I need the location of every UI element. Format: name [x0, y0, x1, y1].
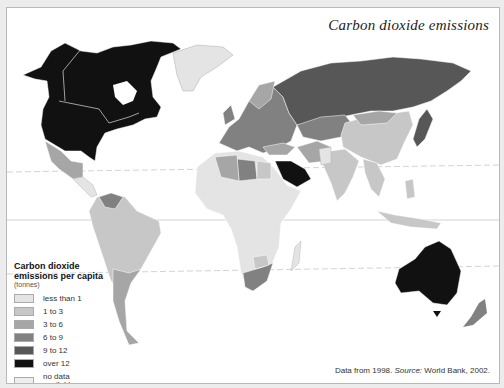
region-tasmania [433, 311, 441, 317]
legend-swatch [14, 307, 34, 316]
region-madagascar [291, 241, 301, 271]
legend-item-6-to-9: 6 to 9 [14, 331, 124, 344]
legend-swatch [14, 346, 34, 355]
legend-item-9-to-12: 9 to 12 [14, 344, 124, 357]
legend-swatch [14, 294, 34, 303]
region-greenland [173, 45, 233, 91]
legend-label: 6 to 9 [43, 334, 63, 342]
legend-swatch [14, 333, 34, 342]
legend-swatch [14, 320, 34, 329]
source-prefix: Data from 1998. [335, 366, 392, 375]
map-panel: Carbon dioxide emissions Carbon dioxide … [6, 7, 500, 384]
legend-item-no-data: no data available [14, 370, 124, 384]
region-egypt [257, 161, 271, 179]
legend-title-line2: emissions per capita [14, 271, 124, 281]
source-text: World Bank, 2002. [424, 366, 490, 375]
legend-title-line1: Carbon dioxide [14, 261, 124, 271]
legend-swatch [14, 377, 34, 385]
region-new-zealand [463, 299, 487, 327]
legend-label: 3 to 6 [43, 321, 63, 329]
legend-item-3-to-6: 3 to 6 [14, 318, 124, 331]
legend-label-line2: available [43, 380, 75, 384]
legend-label: 9 to 12 [43, 347, 67, 355]
legend: Carbon dioxide emissions per capita (ton… [14, 261, 124, 384]
region-japan [413, 109, 433, 147]
source-note: Data from 1998. Source: World Bank, 2002… [335, 366, 490, 375]
region-uk [223, 105, 235, 125]
region-central-america [73, 177, 97, 197]
region-philippines [405, 179, 415, 199]
legend-item-1-to-3: 1 to 3 [14, 305, 124, 318]
legend-unit: (tonnes) [14, 281, 124, 288]
map-title: Carbon dioxide emissions [328, 17, 489, 34]
legend-item-over-12: over 12 [14, 357, 124, 370]
legend-swatch [14, 359, 34, 368]
region-australia [395, 241, 461, 305]
legend-label: no data available [43, 373, 75, 384]
legend-item-less-than-1: less than 1 [14, 292, 124, 305]
source-label: Source: [395, 366, 423, 375]
legend-label: over 12 [43, 360, 70, 368]
legend-label: 1 to 3 [43, 308, 63, 316]
region-libya [237, 159, 257, 181]
legend-label: less than 1 [43, 295, 82, 303]
region-pakistan [319, 147, 331, 165]
